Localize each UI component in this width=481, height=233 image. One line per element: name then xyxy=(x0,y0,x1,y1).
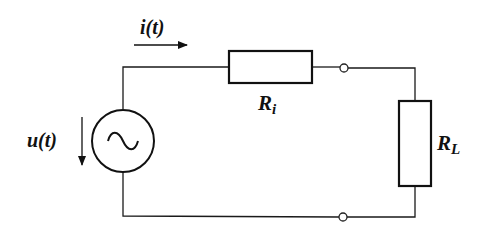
wire-terminal-to-rl xyxy=(348,68,415,101)
ri-label: Ri xyxy=(257,91,277,117)
circuit-diagram: i(t) u(t) Ri RL xyxy=(0,0,481,233)
resistor-rl xyxy=(399,101,431,186)
rl-label-sub: L xyxy=(450,141,460,157)
ac-voltage-source xyxy=(92,110,154,172)
resistor-ri xyxy=(229,51,312,83)
wire-bottom-terminal-to-source xyxy=(123,172,339,217)
wire-rl-to-bottom-terminal xyxy=(347,186,415,217)
wires xyxy=(123,67,415,217)
rl-label: RL xyxy=(436,131,460,157)
ri-label-main: R xyxy=(257,91,272,115)
terminal-top xyxy=(340,64,348,72)
current-label: i(t) xyxy=(140,16,164,39)
rl-label-main: R xyxy=(436,131,451,155)
ri-label-sub: i xyxy=(272,101,277,117)
wire-source-to-ri xyxy=(123,67,229,109)
terminal-bottom xyxy=(339,213,347,221)
voltage-label: u(t) xyxy=(27,129,57,152)
